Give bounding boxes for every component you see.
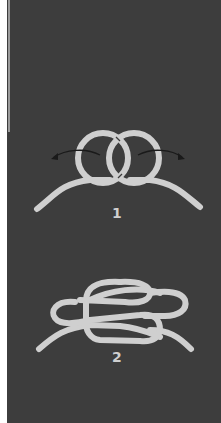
knot-step-2-illustration bbox=[0, 0, 221, 423]
step-number-2: 2 bbox=[112, 350, 122, 364]
knot-step-2: 2 bbox=[0, 0, 221, 423]
